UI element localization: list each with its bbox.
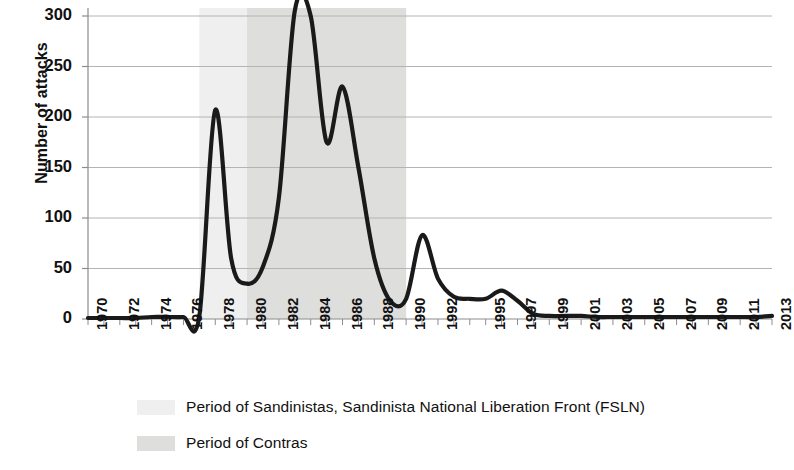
contras-color-swatch <box>137 436 175 451</box>
x-tick-label: 1980 <box>253 298 269 330</box>
y-tick-label: 250 <box>12 56 72 75</box>
y-tick-label: 150 <box>12 157 72 176</box>
fsln-color-swatch <box>137 400 175 415</box>
shaded-bands-group <box>199 8 406 319</box>
x-tick-label: 2005 <box>651 298 667 330</box>
x-tick-label: 2013 <box>778 298 794 330</box>
y-tick-label: 100 <box>12 207 72 226</box>
x-tick-label: 1978 <box>221 298 237 330</box>
x-tick-label: 1999 <box>555 298 571 330</box>
x-tick-label: 2001 <box>587 298 603 330</box>
x-tick-label: 1997 <box>523 298 539 330</box>
x-tick-label: 1972 <box>126 298 142 330</box>
x-tick-label: 1974 <box>158 298 174 330</box>
x-tick-label: 2011 <box>746 299 762 330</box>
legend-label-fsln: Period of Sandinistas, Sandinista Nation… <box>186 398 645 416</box>
legend-item-fsln: Period of Sandinistas, Sandinista Nation… <box>137 398 645 416</box>
y-tick-label: 200 <box>12 106 72 125</box>
x-tick-label: 1990 <box>412 298 428 330</box>
x-tick-label: 1982 <box>285 298 301 330</box>
contras-period-band <box>247 8 406 319</box>
x-tick-label: 2009 <box>714 298 730 330</box>
y-tick-label: 50 <box>12 258 72 277</box>
y-tick-label: 300 <box>12 5 72 24</box>
gridlines-group <box>88 16 772 269</box>
y-tick-label: 0 <box>12 308 72 327</box>
x-tick-label: 2003 <box>619 298 635 330</box>
y-tick-marks-group <box>82 16 88 319</box>
x-tick-label: 1976 <box>189 298 205 330</box>
legend-item-contras: Period of Contras <box>137 434 307 452</box>
x-tick-label: 1970 <box>94 298 110 330</box>
x-tick-label: 1986 <box>349 298 365 330</box>
x-tick-label: 1984 <box>317 298 333 330</box>
x-tick-label: 2007 <box>683 298 699 330</box>
legend-label-contras: Period of Contras <box>186 434 307 452</box>
x-tick-label: 1995 <box>492 298 508 330</box>
x-tick-label: 1992 <box>444 298 460 330</box>
x-tick-label: 1988 <box>380 298 396 330</box>
attacks-series-line <box>88 0 772 332</box>
